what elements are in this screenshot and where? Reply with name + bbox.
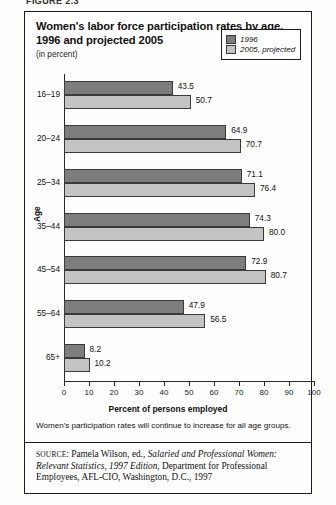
bar — [64, 139, 241, 153]
chart-legend: 1996 2005, projected — [221, 29, 301, 60]
x-tick-label: 60 — [210, 388, 219, 397]
y-tick-label: 55–64 — [37, 308, 60, 318]
bar — [64, 227, 264, 241]
bar — [64, 95, 191, 109]
y-tick-label: 16–19 — [37, 89, 60, 99]
x-tick — [189, 381, 190, 386]
figure-page: FIGURE 2.3 Women's labor force participa… — [0, 0, 336, 505]
bar-group: 65+8.210.2 — [64, 344, 314, 372]
bar — [64, 183, 255, 197]
chart-caption: Women's participation rates will continu… — [36, 420, 298, 431]
x-tick-label: 0 — [62, 388, 66, 397]
y-tick-label: 20–24 — [37, 133, 60, 143]
figure-number: FIGURE 2.3 — [26, 0, 79, 6]
bar-value-label: 47.9 — [189, 300, 205, 310]
bar-value-label: 70.7 — [246, 139, 262, 149]
y-tick-label: 45–54 — [37, 264, 60, 274]
x-tick-label: 70 — [235, 388, 244, 397]
x-tick — [89, 381, 90, 386]
bar-value-label: 72.9 — [251, 256, 267, 266]
bar-group: 55–6447.956.5 — [64, 300, 314, 328]
x-tick — [264, 381, 265, 386]
x-tick — [139, 381, 140, 386]
x-tick — [314, 381, 315, 386]
bar — [64, 344, 85, 358]
source-prefix: SOURCE — [36, 450, 66, 459]
x-axis-title: Percent of persons employed — [25, 404, 311, 414]
x-tick-label: 40 — [160, 388, 169, 397]
bar-group: 25–3471.176.4 — [64, 169, 314, 197]
bar-value-label: 76.4 — [260, 183, 276, 193]
legend-label-1996: 1996 — [240, 35, 258, 44]
x-tick-label: 30 — [135, 388, 144, 397]
bar — [64, 213, 250, 227]
bar — [64, 314, 205, 328]
source-author: : Pamela Wilson, ed., — [66, 449, 147, 459]
bar-group: 20–2464.970.7 — [64, 125, 314, 153]
x-tick-label: 10 — [85, 388, 94, 397]
bar-value-label: 80.0 — [269, 227, 285, 237]
bar — [64, 125, 226, 139]
x-tick — [114, 381, 115, 386]
y-tick-label: 65+ — [46, 352, 60, 362]
bar — [64, 300, 184, 314]
legend-item-1996: 1996 — [226, 35, 295, 44]
x-tick — [239, 381, 240, 386]
bar-value-label: 71.1 — [247, 169, 263, 179]
bar — [64, 358, 90, 372]
bar-value-label: 74.3 — [255, 213, 271, 223]
legend-swatch-2005 — [226, 45, 236, 54]
figure-number-strip: FIGURE 2.3 — [0, 0, 336, 11]
chart-subtitle: (in percent) — [36, 50, 77, 59]
bar-value-label: 50.7 — [196, 95, 212, 105]
section-divider — [25, 442, 311, 443]
x-tick-label: 50 — [185, 388, 194, 397]
y-tick-label: 25–34 — [37, 177, 60, 187]
plot-area: 0102030405060708090100 16–1943.550.720–2… — [64, 74, 314, 381]
x-tick — [289, 381, 290, 386]
figure-frame: Women's labor force participation rates … — [24, 11, 312, 494]
legend-label-2005: 2005, projected — [240, 45, 295, 54]
bar — [64, 169, 242, 183]
x-tick — [164, 381, 165, 386]
bar-group: 35–4474.380.0 — [64, 213, 314, 241]
legend-swatch-1996 — [226, 35, 236, 44]
bar-value-label: 43.5 — [178, 81, 194, 91]
source-note: SOURCE: Pamela Wilson, ed., Salaried and… — [36, 449, 298, 484]
x-tick — [214, 381, 215, 386]
bar — [64, 270, 266, 284]
x-tick-label: 80 — [260, 388, 269, 397]
x-tick-label: 20 — [110, 388, 119, 397]
bar-group: 45–5472.980.7 — [64, 256, 314, 284]
bar-value-label: 8.2 — [90, 344, 102, 354]
bar-value-label: 56.5 — [210, 314, 226, 324]
bar-group: 16–1943.550.7 — [64, 81, 314, 109]
x-tick-label: 100 — [307, 388, 320, 397]
y-tick-label: 35–44 — [37, 221, 60, 231]
x-tick — [64, 381, 65, 386]
x-tick-label: 90 — [285, 388, 294, 397]
legend-item-2005: 2005, projected — [226, 45, 295, 54]
bar — [64, 256, 246, 270]
bar-value-label: 10.2 — [95, 358, 111, 368]
bar — [64, 81, 173, 95]
bar-value-label: 80.7 — [271, 270, 287, 280]
bar-value-label: 64.9 — [231, 125, 247, 135]
